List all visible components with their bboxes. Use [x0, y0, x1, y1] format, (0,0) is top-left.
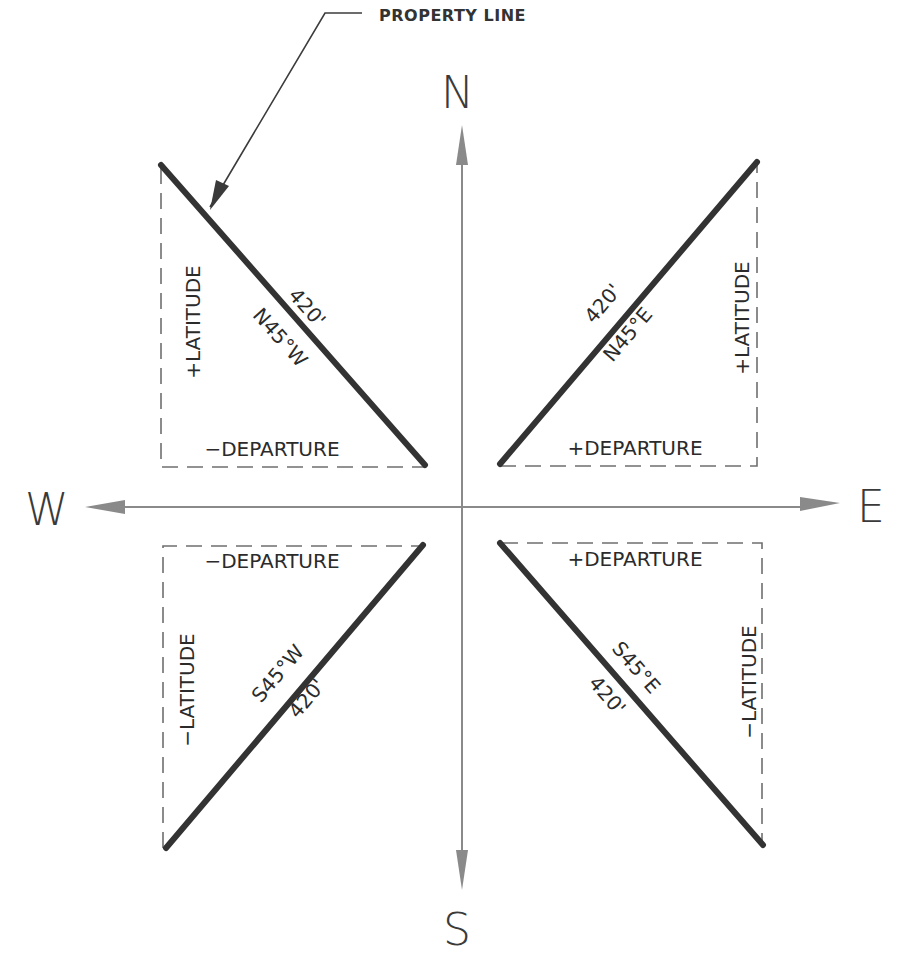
ne-property-line: [500, 162, 757, 464]
compass-axes: [85, 125, 840, 890]
se-property-line: [500, 543, 763, 845]
ne-departure: +DEPARTURE: [567, 436, 702, 460]
se-distance: 420': [584, 671, 631, 720]
callout-arrowhead-icon: [210, 180, 229, 210]
north-arrow-icon: [456, 125, 468, 165]
quadrant-nw: 420' N45°W +LATITUDE −DEPARTURE: [161, 165, 425, 467]
nw-departure: −DEPARTURE: [204, 437, 339, 461]
sw-latitude: −LATITUDE: [175, 633, 199, 747]
se-latitude: −LATITUDE: [737, 625, 761, 739]
west-arrow-icon: [85, 500, 125, 514]
callout-label: PROPERTY LINE: [379, 6, 526, 25]
nw-latitude: +LATITUDE: [181, 265, 205, 379]
north-label: N: [441, 67, 474, 118]
sw-distance: 420': [283, 674, 330, 723]
se-departure: +DEPARTURE: [567, 547, 702, 571]
west-label: W: [25, 484, 69, 535]
bearings-diagram: PROPERTY LINE N S E W 420' N45°W +LATITU…: [0, 0, 918, 962]
east-arrow-icon: [800, 497, 840, 511]
quadrant-sw: S45°W 420' −LATITUDE −DEPARTURE: [163, 545, 423, 848]
quadrant-ne: 420' N45°E +LATITUDE +DEPARTURE: [500, 162, 757, 466]
ne-latitude: +LATITUDE: [730, 261, 754, 375]
nw-distance: 420': [284, 283, 331, 332]
sw-departure: −DEPARTURE: [204, 549, 339, 573]
quadrant-se: S45°E 420' −LATITUDE +DEPARTURE: [500, 543, 763, 845]
south-label: S: [443, 904, 471, 955]
east-label: E: [857, 481, 885, 532]
callout-leader: [210, 13, 362, 207]
property-line-callout: PROPERTY LINE: [210, 6, 526, 210]
south-arrow-icon: [456, 850, 468, 890]
